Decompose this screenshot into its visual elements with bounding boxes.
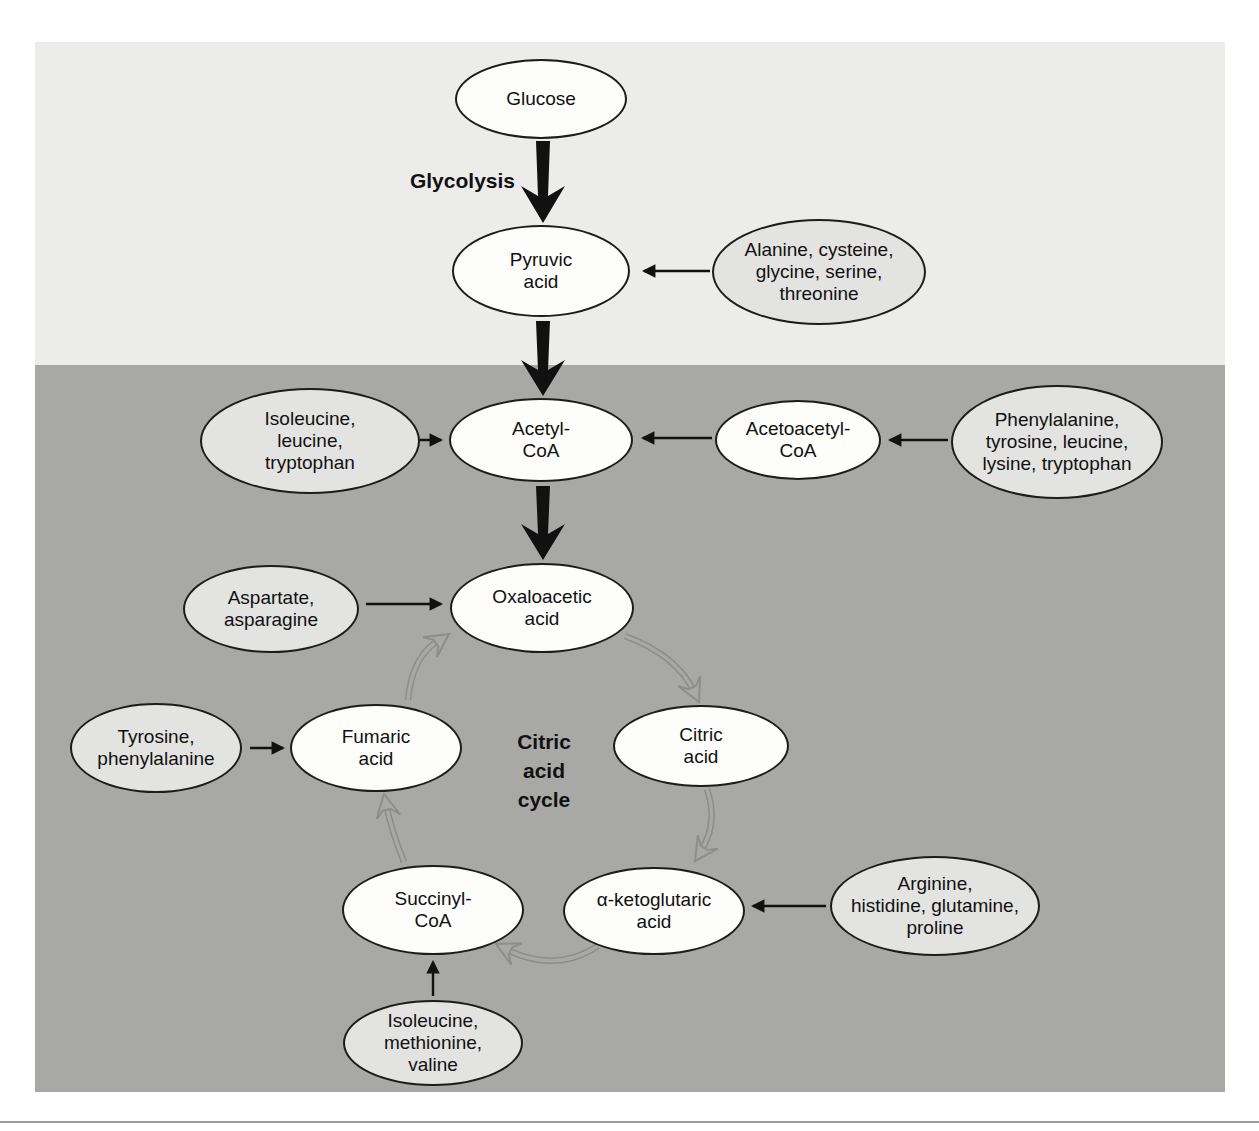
node-oxaloacetic-acid: Oxaloacetic acid [450,563,634,653]
node-alpha-ketoglutaric-acid: α-ketoglutaric acid [563,867,745,955]
node-arginine-group: Arginine, histidine, glutamine, proline [830,856,1040,956]
node-succinyl-coa-label: Succinyl- CoA [394,888,471,932]
node-glucose-label: Glucose [506,88,576,110]
node-citric-acid-label: Citric acid [679,724,722,768]
node-aspartate-group-label: Aspartate, asparagine [224,587,318,631]
node-acetyl-coa-label: Acetyl- CoA [512,418,570,462]
pathway-diagram: Glycolysis Citric acid cycle Glucose Pyr… [0,0,1259,1131]
node-succinyl-coa: Succinyl- CoA [342,865,524,955]
node-aspartate-group: Aspartate, asparagine [183,565,359,653]
node-pyruvic-acid-label: Pyruvic acid [510,249,572,293]
node-isoleucine-methionine-valine-group: Isoleucine, methionine, valine [343,1000,523,1086]
node-alanine-group-label: Alanine, cysteine, glycine, serine, thre… [745,239,894,305]
node-isoleucine-methionine-valine-group-label: Isoleucine, methionine, valine [384,1010,482,1076]
node-isoleucine-group-label: Isoleucine, leucine, tryptophan [265,408,356,474]
bottom-rule-line [0,1121,1259,1123]
node-pyruvic-acid: Pyruvic acid [452,225,630,317]
node-oxaloacetic-acid-label: Oxaloacetic acid [492,586,591,630]
node-tyrosine-group-label: Tyrosine, phenylalanine [97,726,214,770]
node-phenylalanine-group: Phenylalanine, tyrosine, leucine, lysine… [951,385,1163,499]
node-phenylalanine-group-label: Phenylalanine, tyrosine, leucine, lysine… [983,409,1132,475]
node-fumaric-acid: Fumaric acid [290,704,462,792]
node-acetoacetyl-coa-label: Acetoacetyl- CoA [746,418,851,462]
node-alpha-ketoglutaric-acid-label: α-ketoglutaric acid [597,889,711,933]
node-citric-acid: Citric acid [613,705,789,787]
node-arginine-group-label: Arginine, histidine, glutamine, proline [851,873,1019,939]
glycolysis-label: Glycolysis [383,167,515,195]
node-fumaric-acid-label: Fumaric acid [342,726,411,770]
node-tyrosine-group: Tyrosine, phenylalanine [70,703,242,793]
glycolysis-section-background [35,42,1225,365]
node-acetoacetyl-coa: Acetoacetyl- CoA [715,400,881,480]
citric-acid-cycle-label: Citric acid cycle [483,727,605,814]
node-isoleucine-group: Isoleucine, leucine, tryptophan [200,388,420,494]
node-acetyl-coa: Acetyl- CoA [449,398,633,482]
node-alanine-group: Alanine, cysteine, glycine, serine, thre… [712,219,926,325]
node-glucose: Glucose [455,59,627,139]
